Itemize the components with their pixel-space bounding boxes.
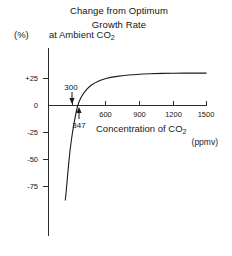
x-axis-label-main-text: Concentration of CO <box>96 123 183 134</box>
x-tick-label-900: 900 <box>133 110 146 119</box>
x-axis-units: (ppmv) <box>96 136 232 148</box>
y-tick-label-zero: 0 <box>34 101 38 110</box>
y-tick-label-plus25: +25 <box>25 74 38 83</box>
x-axis-label: Concentration of CO2 <box>96 122 232 136</box>
x-axis-co2-subscript: 2 <box>183 128 187 135</box>
annotation-300-arrow-head <box>69 98 74 104</box>
y-tick-label-minus75: -75 <box>27 182 38 191</box>
y-tick-label-minus50: -50 <box>27 155 38 164</box>
x-axis-label-block: Concentration of CO2 (ppmv) <box>96 122 232 148</box>
chart-figure: Change from Optimum Growth Rate (%)at Am… <box>0 0 232 256</box>
x-tick-label-600: 600 <box>99 110 112 119</box>
y-tick-label-minus25: -25 <box>27 128 38 137</box>
x-tick-label-1500: 1500 <box>198 110 215 119</box>
annotation-300-label: 300 <box>64 83 78 92</box>
x-tick-label-1200: 1200 <box>165 110 182 119</box>
